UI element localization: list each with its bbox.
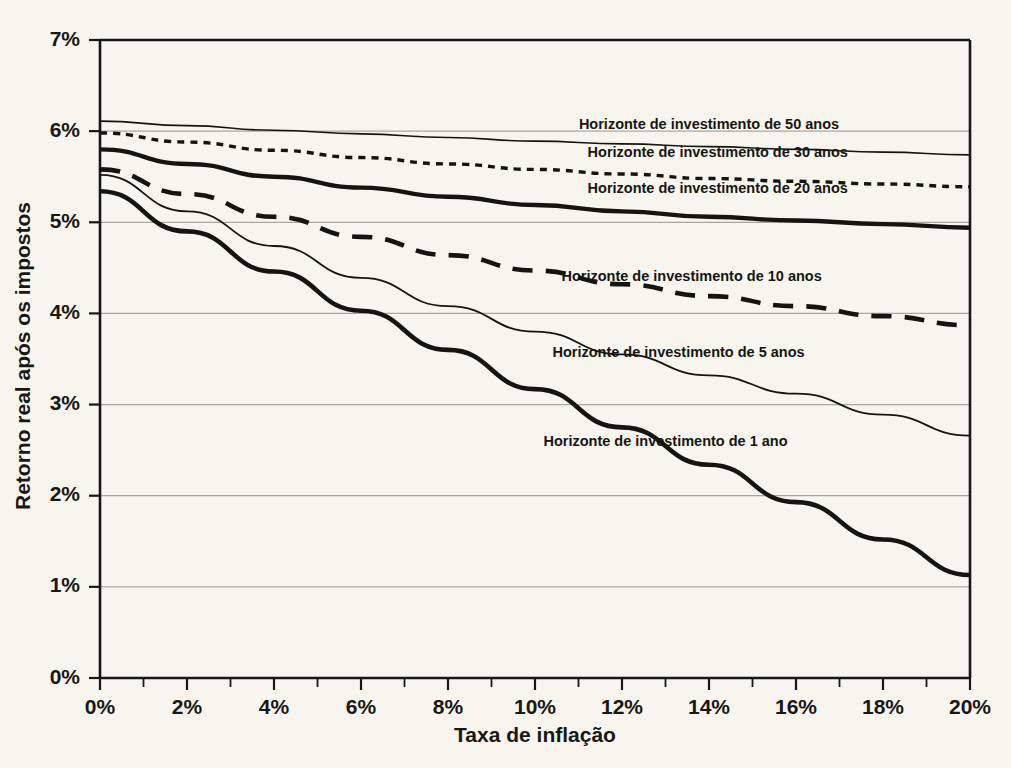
x-tick-label-6: 6%: [346, 695, 377, 718]
y-axis-title: Retorno real após os impostos: [11, 202, 34, 510]
y-tick-label-6: 6%: [50, 118, 81, 141]
x-tick-label-16: 16%: [775, 695, 817, 718]
x-tick-label-8: 8%: [433, 695, 464, 718]
x-tick-label-18: 18%: [862, 695, 904, 718]
y-tick-label-0: 0%: [50, 665, 81, 688]
y-tick-label-1: 1%: [50, 573, 81, 596]
y-tick-label-5: 5%: [50, 209, 81, 232]
series-label-2: Horizonte de investimento de 20 anos: [588, 180, 848, 196]
series-label-3: Horizonte de investimento de 10 anos: [561, 268, 821, 284]
chart-container: 0%1%2%3%4%5%6%7% 0%2%4%6%8%10%12%14%16%1…: [0, 0, 1011, 768]
series-label-5: Horizonte de investimento de 1 ano: [543, 433, 787, 449]
y-tick-label-2: 2%: [50, 482, 81, 505]
x-tick-label-20: 20%: [949, 695, 991, 718]
x-axis-title: Taxa de inflação: [454, 723, 616, 746]
y-tick-label-4: 4%: [50, 300, 81, 323]
x-tick-label-10: 10%: [514, 695, 556, 718]
x-tick-label-4: 4%: [259, 695, 290, 718]
chart-background: [0, 0, 1011, 768]
y-tick-label-3: 3%: [50, 391, 81, 414]
x-tick-label-12: 12%: [601, 695, 643, 718]
x-tick-label-14: 14%: [688, 695, 730, 718]
x-tick-label-2: 2%: [172, 695, 203, 718]
inflation-real-return-line-chart: 0%1%2%3%4%5%6%7% 0%2%4%6%8%10%12%14%16%1…: [0, 0, 1011, 768]
series-label-0: Horizonte de investimento de 50 anos: [579, 116, 839, 132]
series-label-4: Horizonte de investimento de 5 anos: [552, 344, 804, 360]
y-tick-label-7: 7%: [50, 27, 81, 50]
series-label-1: Horizonte de investimento de 30 anos: [588, 144, 848, 160]
x-tick-label-0: 0%: [85, 695, 116, 718]
